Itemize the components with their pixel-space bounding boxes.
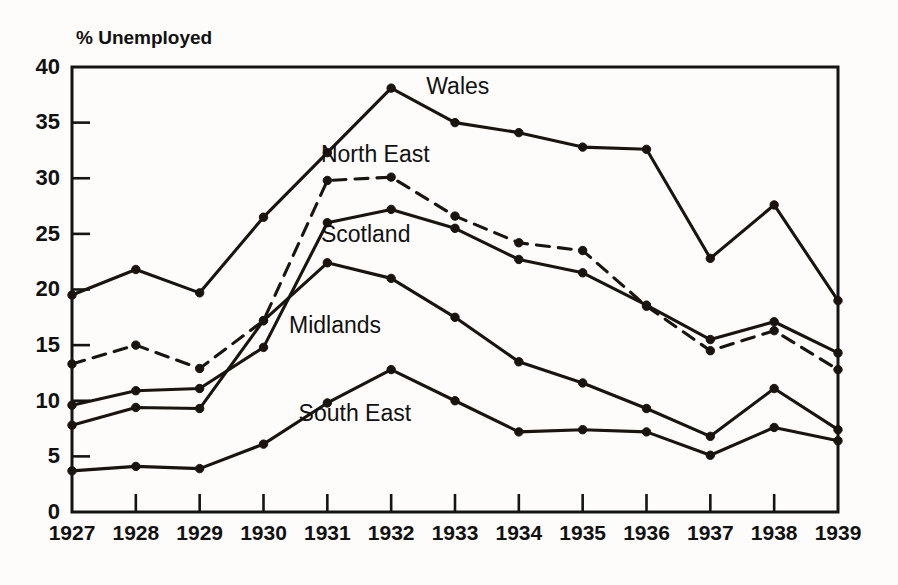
data-series-group <box>68 84 842 475</box>
series-north-east <box>68 173 842 374</box>
x-tick-label: 1927 <box>49 521 96 544</box>
data-point <box>451 224 459 232</box>
data-point <box>259 343 267 351</box>
data-point <box>770 201 778 209</box>
data-point <box>642 428 650 436</box>
data-point <box>515 358 523 366</box>
data-point <box>68 360 76 368</box>
data-point <box>515 428 523 436</box>
x-axis-tick-labels: 1927192819291930193119321933193419351936… <box>49 521 862 544</box>
x-tick-label: 1937 <box>687 521 734 544</box>
series-label-south-east: South East <box>299 400 412 426</box>
data-point <box>706 254 714 262</box>
x-tick-label: 1932 <box>368 521 415 544</box>
data-point <box>387 365 395 373</box>
x-tick-label: 1929 <box>176 521 223 544</box>
series-wales <box>68 84 842 305</box>
y-tick-label: 40 <box>36 54 60 79</box>
x-tick-label: 1938 <box>751 521 798 544</box>
x-tick-label: 1930 <box>240 521 287 544</box>
series-line <box>72 370 838 471</box>
x-tick-label: 1935 <box>559 521 606 544</box>
chart-canvas: 0510152025303540 19271928192919301931193… <box>0 0 898 585</box>
data-point <box>706 451 714 459</box>
series-scotland <box>68 205 842 409</box>
data-point <box>132 387 140 395</box>
data-point <box>642 404 650 412</box>
y-tick-label: 35 <box>36 109 60 134</box>
data-point <box>642 145 650 153</box>
data-point <box>578 379 586 387</box>
data-point <box>834 365 842 373</box>
data-point <box>770 326 778 334</box>
data-point <box>323 176 331 184</box>
data-point <box>387 205 395 213</box>
series-south-east <box>68 365 842 475</box>
data-point <box>132 341 140 349</box>
data-point <box>259 213 267 221</box>
data-point <box>68 421 76 429</box>
x-tick-label: 1928 <box>112 521 159 544</box>
data-point <box>68 401 76 409</box>
x-tick-label: 1933 <box>432 521 479 544</box>
series-line <box>72 177 838 369</box>
series-label-north-east: North East <box>321 141 430 167</box>
x-tick-label: 1931 <box>304 521 351 544</box>
y-tick-label: 20 <box>36 276 60 301</box>
data-point <box>387 173 395 181</box>
data-point <box>642 301 650 309</box>
data-point <box>578 143 586 151</box>
y-tick-label: 5 <box>48 443 60 468</box>
data-point <box>834 349 842 357</box>
y-axis-tick-labels: 0510152025303540 <box>36 54 60 524</box>
data-point <box>195 364 203 372</box>
data-point <box>132 265 140 273</box>
y-tick-label: 15 <box>36 332 60 357</box>
data-point <box>706 432 714 440</box>
data-point <box>451 397 459 405</box>
x-tick-label: 1934 <box>495 521 542 544</box>
data-point <box>259 316 267 324</box>
data-point <box>387 84 395 92</box>
data-point <box>132 462 140 470</box>
data-point <box>195 384 203 392</box>
series-line <box>72 209 838 405</box>
data-point <box>195 289 203 297</box>
data-point <box>195 464 203 472</box>
unemployment-line-chart: 0510152025303540 19271928192919301931193… <box>0 0 898 585</box>
series-label-wales: Wales <box>426 73 489 99</box>
x-tick-label: 1936 <box>623 521 670 544</box>
data-point <box>451 212 459 220</box>
data-point <box>132 403 140 411</box>
data-point <box>68 467 76 475</box>
data-point <box>515 255 523 263</box>
data-point <box>578 269 586 277</box>
data-point <box>706 346 714 354</box>
x-tick-label: 1939 <box>815 521 862 544</box>
y-tick-label: 10 <box>36 388 60 413</box>
y-axis-title: % Unemployed <box>76 27 212 48</box>
data-point <box>515 239 523 247</box>
series-label-midlands: Midlands <box>289 312 381 338</box>
data-point <box>195 404 203 412</box>
data-point <box>834 425 842 433</box>
data-point <box>451 118 459 126</box>
x-axis-ticks <box>136 494 774 512</box>
data-point <box>451 313 459 321</box>
data-point <box>834 437 842 445</box>
y-tick-label: 25 <box>36 221 60 246</box>
data-point <box>706 335 714 343</box>
series-label-scotland: Scotland <box>321 221 411 247</box>
data-point <box>68 291 76 299</box>
data-point <box>834 296 842 304</box>
data-point <box>387 274 395 282</box>
y-tick-label: 30 <box>36 165 60 190</box>
data-point <box>578 246 586 254</box>
data-point <box>323 259 331 267</box>
data-point <box>770 318 778 326</box>
data-point <box>578 425 586 433</box>
data-point <box>259 440 267 448</box>
data-point <box>770 384 778 392</box>
data-point <box>515 128 523 136</box>
data-point <box>770 423 778 431</box>
